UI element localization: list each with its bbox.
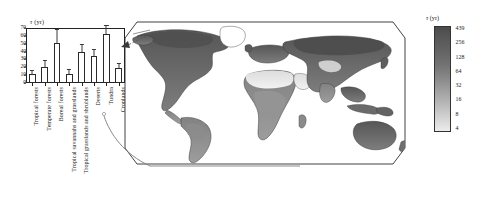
x-axis-category-label: Deserts [96, 87, 102, 105]
x-axis-category-label: Boreal forests [59, 87, 65, 121]
error-bar-line [69, 70, 70, 74]
error-bar-line [56, 30, 57, 43]
bar [78, 52, 85, 83]
bar-group [102, 28, 111, 83]
landmass-uk-ireland [245, 45, 252, 53]
x-axis-category-label: Tropical grasslands and shrublands [84, 87, 90, 173]
colorbar-tick-label: 4 [456, 126, 459, 132]
colorbar-tick-label: 16 [456, 97, 462, 103]
error-bar-line [32, 71, 33, 74]
colorbar-unit: (yr) [430, 14, 439, 21]
error-bar-cap [55, 29, 59, 30]
error-bar-cap [92, 49, 96, 50]
x-axis-tick-mark [69, 83, 70, 86]
colorbar-tick-label: 128 [456, 55, 465, 61]
bar-group [40, 28, 49, 83]
error-bar-cap [42, 60, 46, 61]
error-bar-cap [67, 69, 71, 70]
world-map-panel [119, 12, 411, 172]
bar-group [65, 28, 74, 83]
x-axis-tick-mark [94, 83, 95, 86]
colorbar-gradient [434, 26, 451, 132]
bar-chart-bars-group [26, 28, 125, 83]
error-bar-line [106, 26, 107, 34]
error-bar-cap [80, 44, 84, 45]
error-bar-cap [30, 70, 34, 71]
colorbar-tick-labels: 43925612864321684 [453, 26, 485, 132]
bar [66, 74, 73, 83]
colorbar-tick-label: 256 [456, 40, 465, 46]
bar [41, 67, 48, 83]
x-axis-tick-mark [106, 83, 107, 86]
error-bar-cap [104, 25, 108, 26]
y-axis-unit: (yr) [34, 18, 44, 25]
figure-canvas: τ (yr) 010203040506070 Tropical forestsT… [0, 0, 489, 213]
colorbar-tick-label: 439 [456, 26, 465, 32]
colorbar-panel: τ (yr) 43925612864321684 [424, 14, 486, 164]
bar-chart-panel: τ (yr) 010203040506070 Tropical forestsT… [4, 8, 132, 208]
bar [29, 74, 36, 83]
error-bar-line [94, 50, 95, 56]
colorbar-tick-label: 8 [456, 112, 459, 118]
x-axis-category-label: Temperate forests [47, 87, 53, 131]
bar [54, 43, 61, 83]
bar-group [53, 28, 62, 83]
error-bar-line [81, 45, 82, 52]
region-sahara-lowtau [246, 70, 294, 88]
bar [103, 34, 110, 83]
bar-group [77, 28, 86, 83]
error-bar-line [44, 61, 45, 67]
colorbar-title: τ (yr) [426, 14, 439, 21]
bar-chart-y-axis: 010203040506070 [10, 25, 26, 86]
world-map-svg [119, 12, 411, 172]
bar-group [90, 28, 99, 83]
bar-chart-x-axis-labels: Tropical forestsTemperate forestsBoreal … [26, 87, 125, 207]
colorbar-tick-label: 32 [456, 83, 462, 89]
x-axis-tick-mark [82, 83, 83, 86]
x-axis-category-label: Tundra [109, 87, 115, 104]
colorbar-tick-label: 64 [456, 69, 462, 75]
bar-group [28, 28, 37, 83]
bar-chart-y-axis-title: τ (yr) [30, 18, 44, 25]
bar [91, 56, 98, 84]
x-axis-tick-mark [57, 83, 58, 86]
x-axis-category-label: Tropical forests [34, 87, 40, 126]
x-axis-category-label: Tropical savannahs and grasslands [72, 87, 78, 172]
